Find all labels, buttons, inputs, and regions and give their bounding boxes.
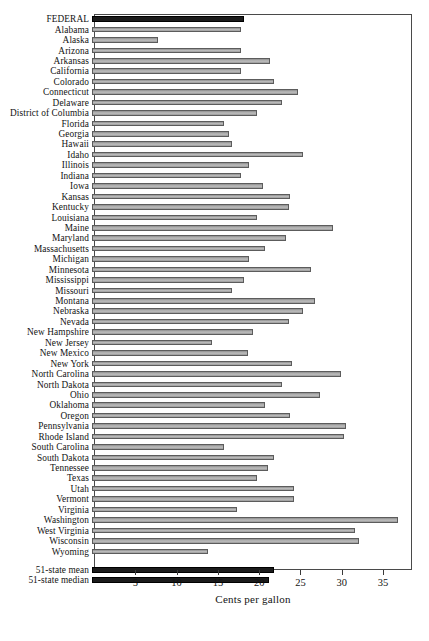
chart-row: Colorado — [0, 77, 429, 87]
bar-cell — [92, 546, 429, 556]
bar-mississippi — [92, 277, 244, 283]
row-label-new-jersey: New Jersey — [0, 338, 92, 348]
bar-cell — [92, 463, 429, 473]
bar-cell — [92, 338, 429, 348]
bar-cell — [92, 536, 429, 546]
row-label-hawaii: Hawaii — [0, 139, 92, 149]
chart-rows-container: FEDERALAlabamaAlaskaArizonaArkansasCalif… — [0, 14, 429, 570]
bar-cell — [92, 379, 429, 389]
bar-cell — [92, 35, 429, 45]
chart-row: Mississippi — [0, 275, 429, 285]
bar-nebraska — [92, 308, 303, 314]
row-label-new-hampshire: New Hampshire — [0, 327, 92, 337]
bar-arkansas — [92, 58, 270, 64]
row-label-51-state-median: 51-state median — [0, 575, 92, 585]
bar-cell — [92, 285, 429, 295]
bar-south-dakota — [92, 455, 274, 461]
chart-row: Rhode Island — [0, 432, 429, 442]
chart-row: Maryland — [0, 233, 429, 243]
chart-row: Wyoming — [0, 546, 429, 556]
row-label-kansas: Kansas — [0, 192, 92, 202]
x-tick-label: 15 — [213, 577, 224, 588]
x-tick-label: 30 — [337, 577, 348, 588]
row-label-51-state-mean: 51-state mean — [0, 565, 92, 575]
x-tick-label: 35 — [378, 577, 389, 588]
row-label-alaska: Alaska — [0, 35, 92, 45]
bar-virginia — [92, 507, 237, 513]
chart-row: District of Columbia — [0, 108, 429, 118]
bar-maine — [92, 225, 333, 231]
chart-row: Kentucky — [0, 202, 429, 212]
bar-nevada — [92, 319, 289, 325]
row-label-massachusetts: Massachusetts — [0, 244, 92, 254]
chart-row: New Mexico — [0, 348, 429, 358]
row-label-oregon: Oregon — [0, 411, 92, 421]
bar-idaho — [92, 152, 303, 158]
x-tick — [135, 570, 136, 575]
chart-row: South Dakota — [0, 452, 429, 462]
bar-cell — [92, 525, 429, 535]
row-label-alabama: Alabama — [0, 25, 92, 35]
chart-row: Virginia — [0, 505, 429, 515]
x-tick — [383, 570, 384, 575]
bar-new-york — [92, 361, 292, 367]
row-label-rhode-island: Rhode Island — [0, 432, 92, 442]
row-label-maine: Maine — [0, 223, 92, 233]
bar-north-carolina — [92, 371, 341, 377]
chart-row: Texas — [0, 473, 429, 483]
bar-cell — [92, 390, 429, 400]
bar-cell — [92, 181, 429, 191]
row-label-iowa: Iowa — [0, 181, 92, 191]
chart-row: Georgia — [0, 129, 429, 139]
bar-cell — [92, 244, 429, 254]
bar-cell — [92, 87, 429, 97]
chart-row: FEDERAL — [0, 14, 429, 24]
bar-kentucky — [92, 204, 289, 210]
row-label-idaho: Idaho — [0, 150, 92, 160]
row-label-new-york: New York — [0, 359, 92, 369]
row-label-north-carolina: North Carolina — [0, 369, 92, 379]
row-label-south-dakota: South Dakota — [0, 453, 92, 463]
x-tick — [177, 570, 178, 575]
chart-row: Hawaii — [0, 139, 429, 149]
bar-minnesota — [92, 267, 311, 273]
row-label-missouri: Missouri — [0, 286, 92, 296]
row-label-michigan: Michigan — [0, 254, 92, 264]
bar-wyoming — [92, 549, 208, 555]
bar-louisiana — [92, 215, 257, 221]
row-label-kentucky: Kentucky — [0, 202, 92, 212]
bar-connecticut — [92, 89, 298, 95]
bar-cell — [92, 77, 429, 87]
bar-district-of-columbia — [92, 110, 257, 116]
bar-utah — [92, 486, 294, 492]
row-label-arkansas: Arkansas — [0, 56, 92, 66]
bar-delaware — [92, 100, 282, 106]
bar-rhode-island — [92, 434, 344, 440]
x-tick — [259, 570, 260, 575]
chart-row: Massachusetts — [0, 244, 429, 254]
chart-row: Alaska — [0, 35, 429, 45]
bar-illinois — [92, 162, 249, 168]
chart-row: North Dakota — [0, 379, 429, 389]
row-label-montana: Montana — [0, 296, 92, 306]
bar-oregon — [92, 413, 290, 419]
row-label-north-dakota: North Dakota — [0, 380, 92, 390]
x-tick — [218, 570, 219, 575]
row-label-new-mexico: New Mexico — [0, 348, 92, 358]
row-label-nevada: Nevada — [0, 317, 92, 327]
bar-west-virginia — [92, 528, 355, 534]
bar-cell — [92, 254, 429, 264]
bar-cell — [92, 442, 429, 452]
bar-massachusetts — [92, 246, 265, 252]
bar-oklahoma — [92, 402, 265, 408]
bar-cell — [92, 233, 429, 243]
bar-cell — [92, 223, 429, 233]
bar-cell — [92, 160, 429, 170]
bar-iowa — [92, 183, 263, 189]
bar-new-jersey — [92, 340, 212, 346]
row-label-wisconsin: Wisconsin — [0, 536, 92, 546]
chart-row: Utah — [0, 484, 429, 494]
bar-colorado — [92, 79, 274, 85]
row-label-oklahoma: Oklahoma — [0, 400, 92, 410]
bar-missouri — [92, 288, 232, 294]
